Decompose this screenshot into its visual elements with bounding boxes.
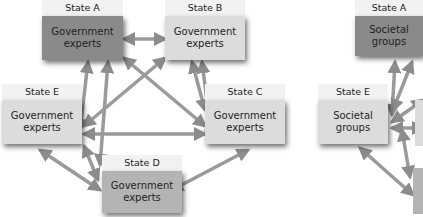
government-experts-box: Government experts <box>2 100 82 144</box>
government-experts-box: Government experts <box>165 16 245 60</box>
box-line1: Government <box>102 180 182 192</box>
partial-box <box>415 100 423 146</box>
box-line2: experts <box>205 122 285 134</box>
box-line1: Government <box>2 110 82 122</box>
state-label: State D <box>102 155 182 171</box>
government-experts-box: Government experts <box>205 100 285 144</box>
node-state-d: State D Government experts <box>102 155 182 215</box>
box-line2: groups <box>355 36 423 48</box>
node-state-c: State C Government experts <box>205 84 285 146</box>
state-label: State B <box>165 0 245 16</box>
state-label: State A <box>42 0 123 16</box>
government-experts-box: Government experts <box>42 16 123 60</box>
state-label: State E <box>2 84 82 100</box>
node-societal-partial-d <box>413 168 423 214</box>
societal-groups-box: Societal groups <box>318 100 388 144</box>
box-line2: groups <box>318 122 388 134</box>
box-line1: Government <box>165 26 245 38</box>
state-label: State E <box>318 84 388 100</box>
box-line1: Societal <box>318 110 388 122</box>
state-label: State C <box>205 84 285 100</box>
box-line1: Government <box>205 110 285 122</box>
partial-box <box>413 168 423 214</box>
box-line2: experts <box>42 38 123 50</box>
box-line2: experts <box>2 122 82 134</box>
node-state-b: State B Government experts <box>165 0 245 62</box>
node-state-e: State E Government experts <box>2 84 82 146</box>
state-label: State A <box>355 0 423 16</box>
node-societal-state-e: State E Societal groups <box>318 84 388 146</box>
box-line1: Government <box>42 26 123 38</box>
societal-groups-box: Societal groups <box>355 16 423 56</box>
node-state-a: State A Government experts <box>42 0 123 62</box>
box-line1: Societal <box>355 24 423 36</box>
node-societal-state-a: State A Societal groups <box>355 0 423 60</box>
box-line2: experts <box>165 38 245 50</box>
box-line2: experts <box>102 192 182 204</box>
node-societal-partial-c <box>415 100 423 146</box>
government-experts-box: Government experts <box>102 171 182 213</box>
